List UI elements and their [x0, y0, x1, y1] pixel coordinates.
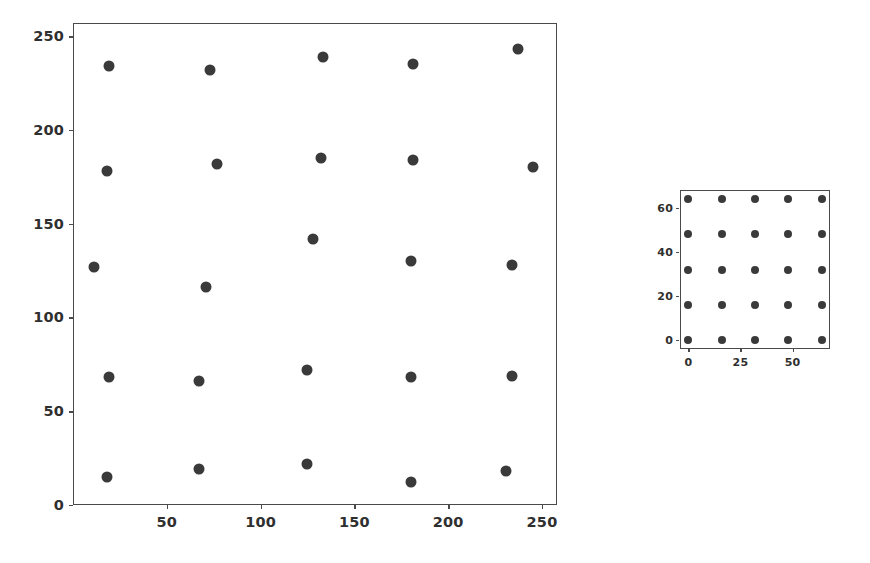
data-point	[407, 154, 418, 165]
data-point	[684, 301, 692, 309]
y-tick-mark	[676, 296, 679, 297]
data-point	[405, 477, 416, 488]
y-tick-label: 40	[657, 245, 673, 258]
x-tick-label: 0	[684, 356, 692, 369]
data-point	[751, 336, 759, 344]
data-point	[684, 230, 692, 238]
y-tick-mark	[69, 224, 73, 225]
y-tick-mark	[69, 317, 73, 318]
x-tick-mark	[354, 505, 355, 509]
x-tick-mark	[688, 349, 689, 352]
data-point	[302, 458, 313, 469]
data-point	[407, 59, 418, 70]
data-point	[718, 336, 726, 344]
y-tick-label: 0	[665, 334, 673, 347]
x-tick-mark	[167, 505, 168, 509]
y-tick-label: 200	[33, 122, 64, 138]
data-point	[527, 162, 538, 173]
data-point	[506, 370, 517, 381]
data-point	[751, 230, 759, 238]
x-tick-mark	[542, 505, 543, 509]
x-tick-label: 150	[339, 514, 370, 530]
data-point	[684, 336, 692, 344]
data-point	[784, 195, 792, 203]
y-tick-label: 150	[33, 216, 64, 232]
data-point	[212, 158, 223, 169]
data-point	[818, 336, 826, 344]
data-point	[101, 166, 112, 177]
figure-canvas: 50100150200250 050100150200250 02550 020…	[0, 0, 870, 563]
data-point	[317, 51, 328, 62]
data-point	[512, 44, 523, 55]
data-point	[684, 266, 692, 274]
data-point	[88, 261, 99, 272]
y-tick-mark	[676, 208, 679, 209]
x-tick-label: 200	[433, 514, 464, 530]
data-point	[405, 372, 416, 383]
y-tick-mark	[69, 411, 73, 412]
data-point	[684, 195, 692, 203]
x-tick-label: 250	[527, 514, 558, 530]
x-tick-mark	[261, 505, 262, 509]
data-point	[405, 256, 416, 267]
data-point	[751, 266, 759, 274]
data-point	[501, 466, 512, 477]
scatter-plot-distorted-grid: 50100150200250 050100150200250	[0, 0, 600, 563]
data-point	[784, 266, 792, 274]
y-tick-mark	[676, 340, 679, 341]
data-point	[718, 230, 726, 238]
x-tick-label: 25	[733, 356, 749, 369]
y-tick-label: 60	[657, 201, 673, 214]
y-tick-label: 250	[33, 28, 64, 44]
x-tick-label: 100	[245, 514, 276, 530]
data-point	[818, 301, 826, 309]
data-point	[718, 301, 726, 309]
data-point	[506, 259, 517, 270]
x-tick-mark	[448, 505, 449, 509]
data-point	[718, 266, 726, 274]
data-point	[201, 282, 212, 293]
data-point	[101, 471, 112, 482]
y-tick-label: 50	[43, 403, 64, 419]
data-point	[193, 464, 204, 475]
x-tick-mark	[793, 349, 794, 352]
data-point	[103, 61, 114, 72]
data-point	[308, 233, 319, 244]
data-point	[784, 336, 792, 344]
data-point	[784, 301, 792, 309]
y-tick-label: 100	[33, 309, 64, 325]
plot-frame-main	[73, 23, 557, 505]
data-point	[718, 195, 726, 203]
scatter-plot-regular-grid: 02550 0204060	[600, 0, 870, 563]
x-tick-label: 50	[785, 356, 801, 369]
data-point	[193, 376, 204, 387]
y-tick-mark	[69, 505, 73, 506]
data-point	[751, 301, 759, 309]
data-point	[302, 364, 313, 375]
y-tick-mark	[676, 252, 679, 253]
x-tick-label: 50	[157, 514, 178, 530]
y-tick-mark	[69, 130, 73, 131]
data-point	[315, 153, 326, 164]
y-tick-mark	[69, 36, 73, 37]
y-tick-label: 20	[657, 290, 673, 303]
data-point	[818, 266, 826, 274]
data-point	[204, 64, 215, 75]
y-tick-label: 0	[54, 497, 64, 513]
data-point	[751, 195, 759, 203]
x-tick-mark	[740, 349, 741, 352]
data-point	[103, 372, 114, 383]
data-point	[818, 230, 826, 238]
data-point	[784, 230, 792, 238]
data-point	[818, 195, 826, 203]
